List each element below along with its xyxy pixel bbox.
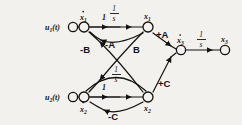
gain-label-posB: B [133, 44, 140, 55]
state-node-xdot3[interactable] [176, 45, 185, 54]
node-label-x1: x1 [143, 12, 151, 22]
node-label-xdot2: x2 [79, 102, 87, 115]
svg-text:x1: x1 [79, 13, 87, 23]
state-node-xdot1[interactable] [79, 22, 89, 32]
gain-label-integrator-1: 1 s [110, 4, 119, 23]
svg-text:s: s [115, 75, 118, 84]
svg-text:1: 1 [114, 65, 118, 74]
svg-text:s: s [200, 40, 203, 49]
svg-text:1: 1 [199, 30, 203, 39]
gain-label-posA: +A [156, 29, 169, 40]
gain-label-u1-unity: 1 [102, 13, 106, 22]
input-node-u1[interactable] [68, 22, 77, 31]
gain-label-u2-unity: 1 [102, 83, 106, 92]
state-node-xdot2[interactable] [79, 92, 89, 102]
gain-label-negB: -B [80, 44, 90, 55]
svg-text:x3: x3 [220, 35, 228, 45]
gain-label-negC: -C [108, 111, 118, 122]
signal-flow-graph-canvas: u1(t) u2(t) x1 x1 x2 [0, 0, 242, 125]
svg-text:1: 1 [112, 4, 116, 13]
input-label-u1: u1(t) [45, 23, 60, 33]
signal-flow-graph-figure: u1(t) u2(t) x1 x1 x2 [0, 0, 242, 125]
state-node-x2[interactable] [143, 92, 153, 102]
node-label-x2: x2 [143, 104, 151, 114]
gain-label-negA: -A [105, 39, 115, 50]
input-node-u2[interactable] [68, 92, 77, 101]
gain-label-integrator-2: 1 s [112, 65, 121, 84]
gain-label-integrator-3: 1 s [197, 30, 206, 49]
gain-label-posC: +C [158, 78, 171, 89]
svg-text:u1(t): u1(t) [45, 23, 60, 33]
node-label-xdot3: x3 [176, 34, 184, 46]
node-label-x3: x3 [220, 35, 228, 45]
state-node-x3[interactable] [220, 45, 229, 54]
svg-text:x1: x1 [143, 12, 151, 22]
svg-text:s: s [113, 14, 116, 23]
state-node-x1[interactable] [143, 22, 153, 32]
node-label-xdot1: x1 [79, 11, 87, 23]
input-label-u2: u2(t) [45, 93, 60, 103]
svg-text:x2: x2 [79, 105, 87, 115]
svg-text:u2(t): u2(t) [45, 93, 60, 103]
svg-text:x3: x3 [176, 36, 184, 46]
svg-text:x2: x2 [143, 104, 151, 114]
